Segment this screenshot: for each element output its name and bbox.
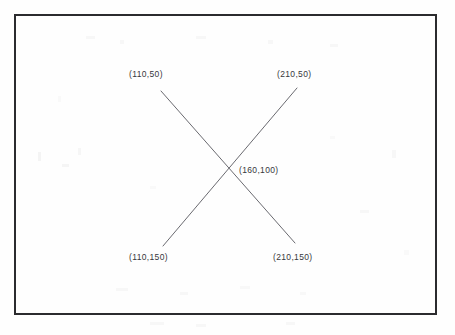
coordinate-label-top-right: (210,50) — [277, 70, 311, 79]
coordinate-label-bottom-right: (210,150) — [273, 253, 313, 262]
coordinate-label-top-left: (110,50) — [129, 70, 163, 79]
figure-root: (110,50) (210,50) (160,100) (110,150) (2… — [0, 0, 455, 335]
coordinate-label-bottom-left: (110,150) — [129, 253, 168, 262]
line-drawing-canvas — [0, 0, 455, 335]
coordinate-label-intersection: (160,100) — [239, 166, 279, 175]
